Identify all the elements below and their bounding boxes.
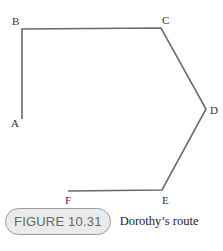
figure-title: Dorothy’s route — [120, 214, 199, 229]
figure-caption: FIGURE 10.31 Dorothy’s route — [5, 208, 198, 235]
point-label-c: C — [162, 14, 169, 26]
point-label-a: A — [11, 117, 19, 129]
figure-number-badge: FIGURE 10.31 — [5, 208, 111, 235]
route-diagram: ABCDEF — [0, 0, 223, 205]
point-label-f: F — [65, 194, 71, 205]
point-label-e: E — [162, 194, 169, 205]
point-label-b: B — [12, 15, 19, 27]
point-label-d: D — [210, 104, 218, 116]
point-labels: ABCDEF — [11, 14, 218, 205]
route-path — [22, 28, 206, 191]
